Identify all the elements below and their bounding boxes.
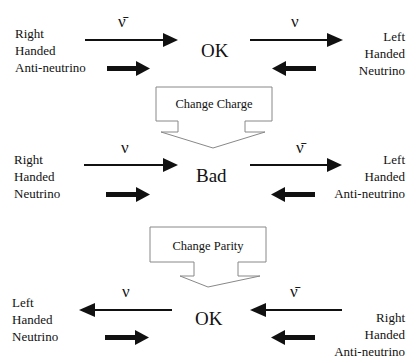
row2-left-label: Right Handed Neutrino xyxy=(14,151,60,202)
label-line: Handed xyxy=(334,168,405,185)
row3-spin-arrow-right xyxy=(271,330,315,345)
row1-neutrino-symbol: ν xyxy=(291,12,299,32)
row3-spin-arrow-left xyxy=(105,330,149,345)
change-parity-arrow-shape xyxy=(150,227,266,287)
label-line: Left xyxy=(359,28,405,45)
label-line: Anti-neutrino xyxy=(334,343,405,360)
label-line: Handed xyxy=(334,326,405,343)
label-line: Left xyxy=(12,294,58,311)
label-line: Right xyxy=(15,25,86,42)
label-line: Left xyxy=(334,151,405,168)
row3-antineutrino-symbol: ν̄ xyxy=(290,282,298,302)
row1-antineutrino-symbol: ν̄ xyxy=(118,12,126,32)
label-line: Handed xyxy=(12,311,58,328)
row2-antineutrino-symbol: ν̄ xyxy=(296,138,304,158)
label-line: Neutrino xyxy=(359,62,405,79)
row1-spin-arrow-left xyxy=(107,61,150,76)
row3-neutrino-symbol: ν xyxy=(122,282,130,302)
row1-left-label: Right Handed Anti-neutrino xyxy=(15,25,86,76)
row2-neutrino-symbol: ν xyxy=(121,138,129,158)
row1-spin-arrow-right xyxy=(272,61,316,76)
label-line: Anti-neutrino xyxy=(15,59,86,76)
row1-momentum-arrow-right xyxy=(250,33,343,47)
row1-momentum-arrow-left xyxy=(85,33,178,47)
row3-momentum-arrow-right xyxy=(250,303,342,317)
label-line: Right xyxy=(14,151,60,168)
row2-spin-arrow-left xyxy=(106,187,150,202)
row3-left-label: Left Handed Neutrino xyxy=(12,294,58,345)
change-parity-label: Change Parity xyxy=(150,239,266,254)
row3-momentum-arrow-left xyxy=(79,303,172,317)
label-line: Handed xyxy=(359,45,405,62)
row3-center-verdict: OK xyxy=(195,308,222,330)
row2-right-label: Left Handed Anti-neutrino xyxy=(334,151,405,202)
label-line: Anti-neutrino xyxy=(334,185,405,202)
label-line: Handed xyxy=(15,42,86,59)
label-line: Handed xyxy=(14,168,60,185)
row1-right-label: Left Handed Neutrino xyxy=(359,28,405,79)
row2-center-verdict: Bad xyxy=(196,165,227,187)
label-line: Right xyxy=(334,309,405,326)
row2-spin-arrow-right xyxy=(271,187,315,202)
label-line: Neutrino xyxy=(14,185,60,202)
change-charge-label: Change Charge xyxy=(156,97,272,112)
row2-momentum-arrow-left xyxy=(84,158,178,172)
row1-center-verdict: OK xyxy=(201,40,228,62)
row2-momentum-arrow-right xyxy=(250,158,342,172)
label-line: Neutrino xyxy=(12,328,58,345)
row3-right-label: Right Handed Anti-neutrino xyxy=(334,309,405,360)
